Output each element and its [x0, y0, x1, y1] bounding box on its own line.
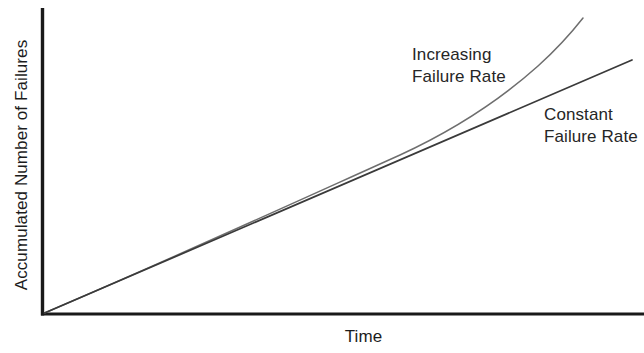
y-axis-label: Accumulated Number of Failures: [11, 10, 32, 320]
constant-failure-rate-line: [45, 60, 633, 313]
constant-failure-rate-label-line1: Constant: [544, 104, 638, 126]
increasing-failure-rate-label: Increasing Failure Rate: [412, 44, 506, 88]
increasing-failure-rate-label-line1: Increasing: [412, 44, 506, 66]
constant-failure-rate-label: Constant Failure Rate: [544, 104, 638, 148]
failure-rate-chart: Accumulated Number of Failures Time Incr…: [0, 0, 644, 353]
chart-plot-area: [0, 0, 644, 353]
increasing-failure-rate-label-line2: Failure Rate: [412, 66, 506, 88]
x-axis-label: Time: [306, 326, 421, 347]
constant-failure-rate-label-line2: Failure Rate: [544, 126, 638, 148]
